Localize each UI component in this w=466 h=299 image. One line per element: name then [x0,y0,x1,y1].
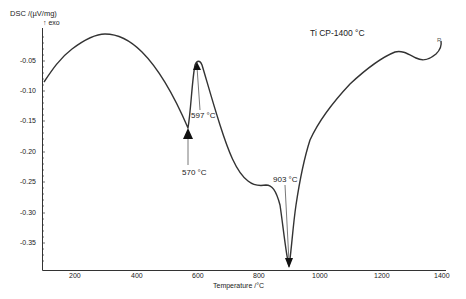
marker-570-triangle [183,128,193,139]
marker-903-arrow [285,258,293,268]
axes [43,28,447,271]
annotation-570: 570 °C [182,168,207,177]
dsc-plot: R [0,0,466,299]
annotation-597: 597 °C [191,111,216,120]
annotation-903: 903 °C [273,175,298,184]
end-marker: R [437,37,442,43]
dsc-curve [44,34,441,266]
